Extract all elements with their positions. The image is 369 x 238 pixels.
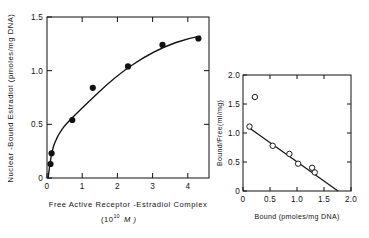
left-x-units-suffix: M ) <box>124 215 137 224</box>
left-xtick-label-1: 1 <box>80 182 85 191</box>
left-data-point <box>159 42 165 48</box>
right-x-axis-title: Bound (pmoles/mg DNA) <box>254 213 339 221</box>
right-ytick-label-0: 0 <box>235 187 240 196</box>
left-x-tickmarks-mirror <box>82 17 188 22</box>
left-ytick-label-1p0: 1.0 <box>31 67 43 76</box>
right-data-point <box>295 161 300 166</box>
right-ytick-label-2p0: 2.0 <box>228 71 240 80</box>
left-panel-saturation-curve: 1.5 1.0 0.5 0 0 1 2 3 4 Nuclear -Bound E… <box>6 13 209 224</box>
left-ytick-label-0p5: 0.5 <box>31 120 43 129</box>
left-ytick-label-1p5: 1.5 <box>31 13 43 22</box>
left-ytick-label-0: 0 <box>38 174 43 183</box>
left-plot-frame <box>47 17 209 178</box>
left-x-axis-title: Free Active Receptor -Estradiol Complex <box>49 200 208 209</box>
left-data-point <box>195 35 201 41</box>
left-x-tickmarks <box>47 173 188 178</box>
right-data-point <box>312 170 317 175</box>
figure-container: 1.5 1.0 0.5 0 0 1 2 3 4 Nuclear -Bound E… <box>0 0 369 238</box>
left-x-units-exponent: 10 <box>114 213 120 219</box>
left-x-axis-title-units: (10 10 M ) <box>101 213 137 224</box>
right-ytick-label-0p5: 0.5 <box>228 158 240 167</box>
right-ytick-label-1p0: 1.0 <box>228 129 240 138</box>
right-y-tickmarks <box>243 75 247 191</box>
left-xtick-label-2: 2 <box>115 182 120 191</box>
right-xtick-label-2p0: 2.0 <box>345 195 357 204</box>
right-panel-scatchard-plot: 2.0 1.5 1.0 0.5 0 0 0.5 1.0 1.5 2.0 Boun… <box>216 71 357 221</box>
right-x-tickmarks-mirror <box>270 75 324 79</box>
right-regression-line <box>248 127 338 191</box>
right-data-points <box>247 94 318 175</box>
figure-svg: 1.5 1.0 0.5 0 0 1 2 3 4 Nuclear -Bound E… <box>0 0 369 238</box>
right-data-point-outlier <box>252 94 257 99</box>
left-data-point <box>49 150 55 156</box>
right-data-point <box>270 143 275 148</box>
right-y-axis-title: Bound/Free(ml/mg) <box>216 100 224 166</box>
right-xtick-label-1p0: 1.0 <box>291 195 303 204</box>
right-plot-frame <box>243 75 351 191</box>
left-xtick-label-4: 4 <box>185 182 190 191</box>
right-data-point <box>287 151 292 156</box>
right-xtick-label-1p5: 1.5 <box>318 195 330 204</box>
left-xtick-label-3: 3 <box>150 182 155 191</box>
left-data-point <box>47 161 53 167</box>
left-y-tickmarks-mirror <box>204 71 209 125</box>
right-xtick-label-0p5: 0.5 <box>264 195 276 204</box>
left-data-point <box>69 117 75 123</box>
right-ytick-label-1p5: 1.5 <box>228 100 240 109</box>
left-data-points <box>47 35 201 167</box>
right-data-point <box>247 124 252 129</box>
left-xtick-label-0: 0 <box>45 182 50 191</box>
right-xtick-label-0: 0 <box>241 195 246 204</box>
left-data-point <box>90 85 96 91</box>
right-y-tickmarks-mirror <box>347 104 351 162</box>
left-data-point <box>125 63 131 69</box>
left-x-units-prefix: (10 <box>101 215 114 224</box>
left-fitted-curve <box>48 36 200 178</box>
left-y-axis-title: Nuclear -Bound Estradiol (pmoles/mg DNA) <box>6 14 15 183</box>
